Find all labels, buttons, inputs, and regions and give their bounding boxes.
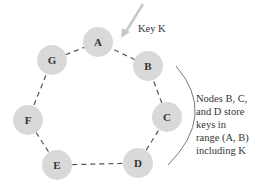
node-label: D <box>134 157 142 169</box>
node-label: F <box>25 114 32 126</box>
annotation-line: keys in <box>196 118 249 131</box>
node-label: B <box>144 60 152 72</box>
ring-node-a: A <box>83 27 113 57</box>
key-label: Key K <box>138 22 166 35</box>
range-annotation: Nodes B, C, and D store keys in range (A… <box>196 92 249 157</box>
node-label: A <box>94 36 102 48</box>
annotation-line: and D store <box>196 105 249 118</box>
annotation-line: range (A, B) <box>196 131 249 144</box>
node-label: G <box>48 54 57 66</box>
ring-arc <box>110 46 138 58</box>
ring-node-b: B <box>133 51 163 81</box>
node-label: E <box>53 159 60 171</box>
key-arrowhead-icon <box>121 28 130 38</box>
ring-node-f: F <box>13 105 43 135</box>
ring-node-e: E <box>42 150 72 180</box>
annotation-line: Nodes B, C, <box>196 92 249 105</box>
node-label: C <box>163 111 171 123</box>
ring-node-g: G <box>37 45 67 75</box>
ring-node-d: D <box>123 148 153 178</box>
annotation-line: including K <box>196 144 249 157</box>
ring-node-c: C <box>152 102 182 132</box>
